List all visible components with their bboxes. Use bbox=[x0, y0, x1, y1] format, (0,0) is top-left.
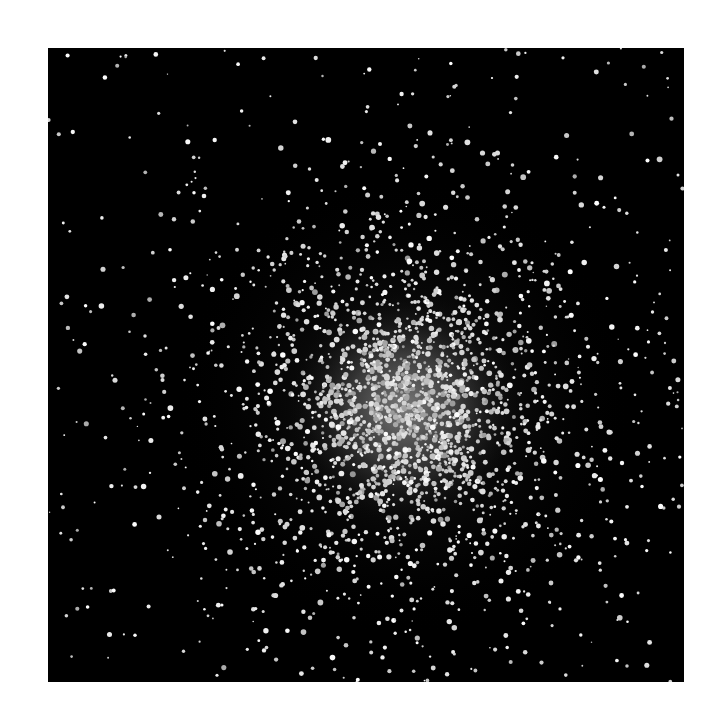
star-field bbox=[48, 48, 684, 682]
star-cluster-photo bbox=[48, 48, 684, 682]
